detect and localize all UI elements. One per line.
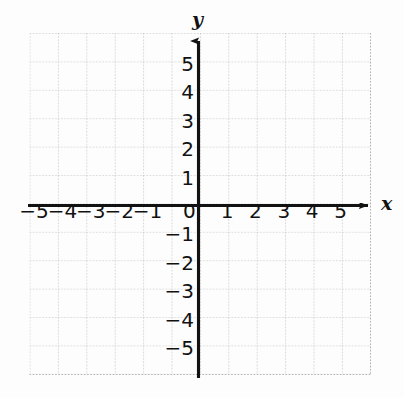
y-tick-label--4: −4 xyxy=(154,310,194,330)
coordinate-plane-figure: x y −5 −4 −3 −2 −1 0 1 2 3 4 5 5 4 3 2 1… xyxy=(0,0,404,398)
y-tick-label-2: 2 xyxy=(168,139,194,159)
y-tick-label-4: 4 xyxy=(168,82,194,102)
x-tick-label--5: −5 xyxy=(19,201,48,221)
y-tick-label-3: 3 xyxy=(168,111,194,131)
x-tick-label--4: −4 xyxy=(48,201,77,221)
x-tick-label-3: 3 xyxy=(277,201,290,221)
y-tick-label--3: −3 xyxy=(154,281,194,301)
origin-label: 0 xyxy=(183,201,196,221)
y-axis-label: y xyxy=(192,10,203,29)
x-tick-label-4: 4 xyxy=(306,201,319,221)
y-tick-label--2: −2 xyxy=(154,253,194,273)
x-tick-label-2: 2 xyxy=(249,201,262,221)
y-tick-label-1: 1 xyxy=(168,168,194,188)
y-tick-label-5: 5 xyxy=(168,54,194,74)
x-axis-label: x xyxy=(381,194,392,213)
y-tick-label--1: −1 xyxy=(154,224,194,244)
x-tick-label-5: 5 xyxy=(334,201,347,221)
y-tick-label--5: −5 xyxy=(154,338,194,358)
x-tick-label--1: −1 xyxy=(133,201,162,221)
x-tick-label--3: −3 xyxy=(76,201,105,221)
x-tick-label--2: −2 xyxy=(104,201,133,221)
x-tick-label-1: 1 xyxy=(221,201,234,221)
